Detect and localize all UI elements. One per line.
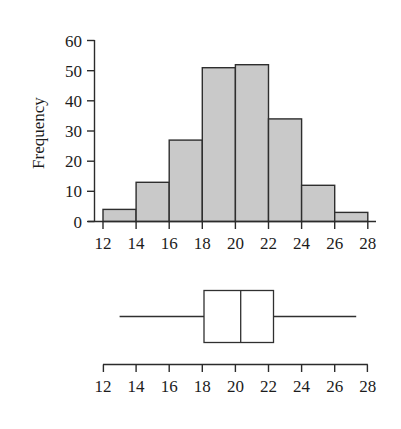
histogram-bar-24-26 <box>302 185 335 221</box>
y-tick-label-10: 10 <box>65 182 82 201</box>
x-tick-label-20: 20 <box>227 234 244 253</box>
x-tick-label-26: 26 <box>326 234 343 253</box>
y-axis-title: Frequency <box>29 97 48 169</box>
statistics-figure: Frequency 60 50 40 30 20 10 0 <box>0 0 401 429</box>
x-tick-label-12: 12 <box>95 234 112 253</box>
boxplot-panel: 12 14 16 18 20 22 24 26 28 <box>95 291 377 397</box>
histogram-bar-26-28 <box>335 212 368 221</box>
x-tick-label-24: 24 <box>293 234 311 253</box>
boxplot-tick-label-28: 28 <box>359 377 376 396</box>
y-tick-label-30: 30 <box>65 122 82 141</box>
y-tick-label-40: 40 <box>65 92 82 111</box>
boxplot-tick-label-26: 26 <box>326 377 343 396</box>
histogram-bars <box>103 65 368 222</box>
y-tick-label-20: 20 <box>65 152 82 171</box>
histogram-panel: Frequency 60 50 40 30 20 10 0 <box>29 32 376 254</box>
y-axis-ticks: 60 50 40 30 20 10 0 <box>65 32 95 232</box>
x-tick-label-22: 22 <box>260 234 277 253</box>
x-tick-label-16: 16 <box>161 234 178 253</box>
histogram-bar-20-22 <box>235 65 268 222</box>
boxplot-axis-ticks <box>103 365 367 373</box>
y-tick-label-60: 60 <box>65 32 82 51</box>
x-axis-tick-labels: 12 14 16 18 20 22 24 26 28 <box>95 234 377 253</box>
boxplot-tick-label-12: 12 <box>95 377 112 396</box>
boxplot-tick-label-16: 16 <box>161 377 178 396</box>
histogram-bar-14-16 <box>136 182 169 221</box>
boxplot-tick-label-18: 18 <box>194 377 211 396</box>
figure-canvas: Frequency 60 50 40 30 20 10 0 <box>0 0 401 429</box>
boxplot-tick-label-22: 22 <box>260 377 277 396</box>
x-tick-label-14: 14 <box>128 234 146 253</box>
boxplot-tick-label-20: 20 <box>227 377 244 396</box>
x-tick-label-28: 28 <box>359 234 376 253</box>
x-axis-ticks <box>103 222 368 230</box>
boxplot-tick-label-24: 24 <box>293 377 311 396</box>
histogram-bar-12-14 <box>103 209 136 221</box>
boxplot-box <box>204 291 274 343</box>
y-tick-label-0: 0 <box>74 213 83 232</box>
x-tick-label-18: 18 <box>194 234 211 253</box>
boxplot-axis-tick-labels: 12 14 16 18 20 22 24 26 28 <box>95 377 377 396</box>
histogram-bar-22-24 <box>269 119 302 222</box>
histogram-bar-18-20 <box>202 68 235 222</box>
histogram-bar-16-18 <box>169 140 202 221</box>
y-tick-label-50: 50 <box>65 62 82 81</box>
boxplot-tick-label-14: 14 <box>128 377 146 396</box>
